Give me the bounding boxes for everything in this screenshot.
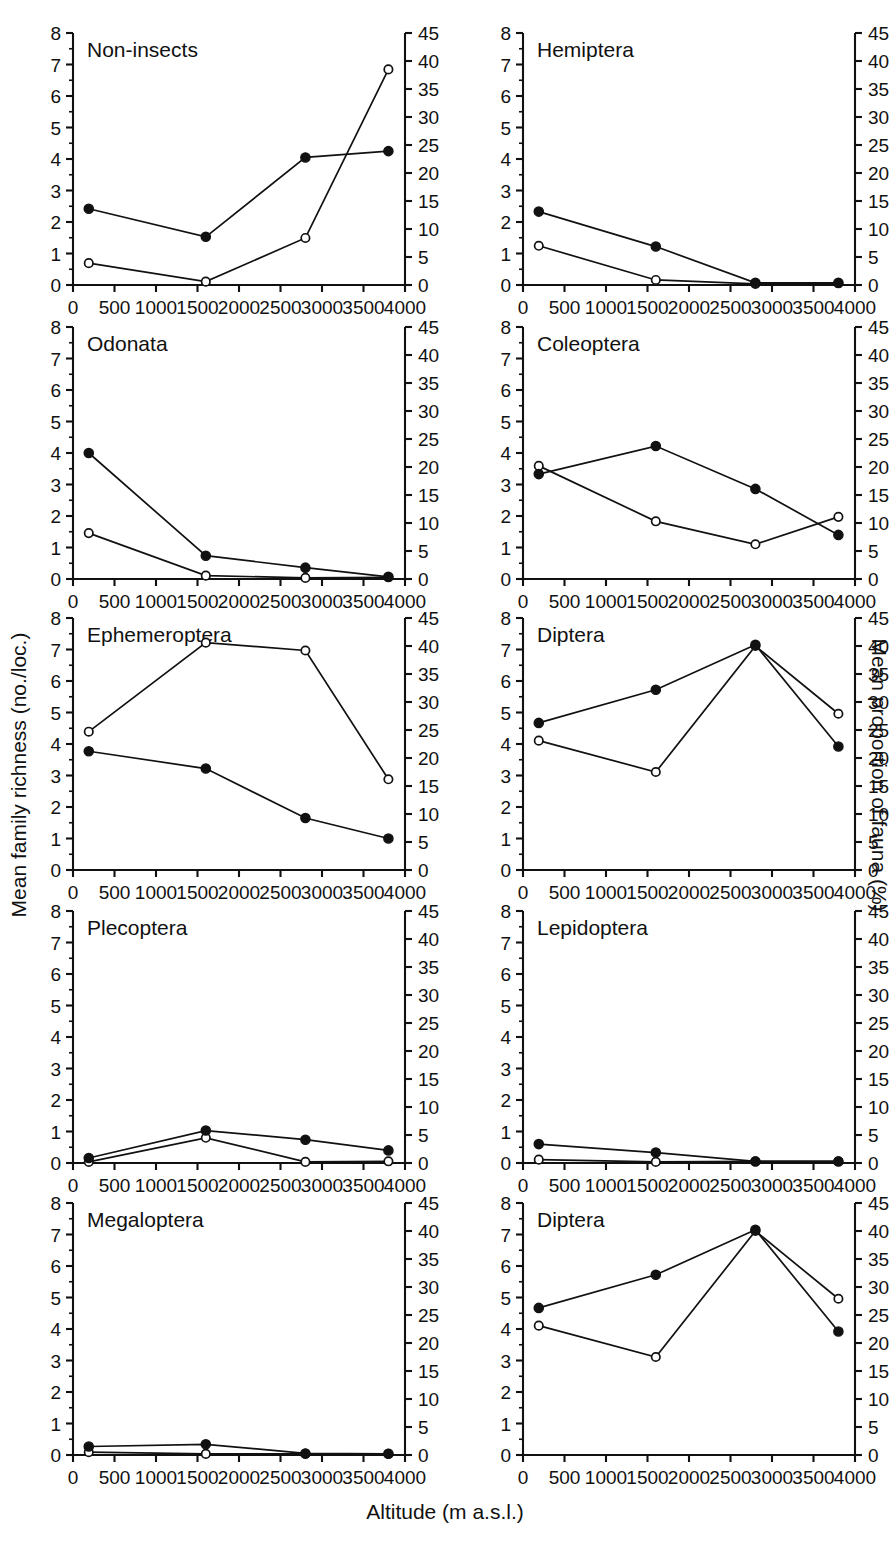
data-point-proportion <box>834 513 842 521</box>
x-axis-tick-label: 2500 <box>259 591 301 612</box>
y-axis-left-tick-label: 5 <box>500 1288 511 1309</box>
series-line-richness <box>539 1144 839 1161</box>
y-axis-right-tick-label: 15 <box>418 776 439 797</box>
data-point-richness <box>84 1442 93 1451</box>
y-axis-left-tick-label: 0 <box>50 569 61 590</box>
y-axis-left-tick-label: 7 <box>500 640 511 661</box>
panel-title: Lepidoptera <box>537 916 648 939</box>
y-axis-right-tick-label: 10 <box>868 1389 889 1410</box>
y-axis-left-tick-label: 8 <box>50 317 61 338</box>
x-axis-tick-label: 500 <box>549 297 581 318</box>
x-axis-tick-label: 3000 <box>301 297 343 318</box>
y-axis-left-tick-label: 7 <box>50 1225 61 1246</box>
data-point-richness <box>651 242 660 251</box>
series-line-proportion <box>539 1231 839 1357</box>
data-point-richness <box>534 1140 543 1149</box>
x-axis-tick-label: 1500 <box>626 297 668 318</box>
y-axis-right-tick-label: 25 <box>418 135 439 156</box>
panel-title: Odonata <box>87 332 168 355</box>
y-axis-left-tick-label: 3 <box>500 475 511 496</box>
x-axis-tick-label: 1500 <box>626 1467 668 1488</box>
x-axis-tick-label: 500 <box>549 591 581 612</box>
y-axis-right-tick-label: 30 <box>418 401 439 422</box>
x-axis-tick-label: 0 <box>68 1467 79 1488</box>
x-axis-tick-label: 1000 <box>135 882 177 903</box>
y-axis-left-tick-label: 6 <box>500 86 511 107</box>
y-axis-left-tick-label: 8 <box>500 608 511 629</box>
data-point-proportion <box>652 1353 660 1361</box>
x-axis-tick-label: 3000 <box>751 591 793 612</box>
y-axis-right-tick-label: 0 <box>868 1445 879 1466</box>
y-axis-right-tick-label: 45 <box>868 1193 889 1214</box>
y-axis-right-tick-label: 5 <box>418 1125 429 1146</box>
y-axis-right-tick-label: 10 <box>418 1097 439 1118</box>
data-point-proportion <box>535 1321 543 1329</box>
y-axis-left-tick-label: 2 <box>50 797 61 818</box>
data-point-richness <box>751 484 760 493</box>
y-axis-left-tick-label: 3 <box>50 766 61 787</box>
data-point-richness <box>84 747 93 756</box>
x-axis-tick-label: 3000 <box>301 591 343 612</box>
y-axis-right-tick-label: 45 <box>418 608 439 629</box>
x-axis-tick-label: 4000 <box>384 1467 426 1488</box>
data-point-richness <box>201 1440 210 1449</box>
data-point-richness <box>301 563 310 572</box>
data-point-richness <box>651 1148 660 1157</box>
series-line-richness <box>89 453 389 577</box>
x-axis-tick-label: 2500 <box>259 882 301 903</box>
x-axis-tick-label: 1500 <box>626 1175 668 1196</box>
y-axis-left-tick-label: 4 <box>500 734 511 755</box>
x-axis-tick-label: 2500 <box>709 882 751 903</box>
x-axis-tick-label: 1000 <box>135 1467 177 1488</box>
y-axis-left-tick-label: 4 <box>50 443 61 464</box>
x-axis-tick-label: 1000 <box>585 297 627 318</box>
y-axis-right-tick-label: 20 <box>868 457 889 478</box>
y-axis-right-tick-label: 35 <box>418 664 439 685</box>
x-axis-tick-label: 0 <box>68 297 79 318</box>
y-axis-left-tick-label: 6 <box>500 671 511 692</box>
y-axis-right-tick-label: 10 <box>418 513 439 534</box>
x-axis-tick-label: 1500 <box>176 297 218 318</box>
x-axis-tick-label: 2500 <box>259 1175 301 1196</box>
data-point-proportion <box>301 574 309 582</box>
y-axis-right-tick-label: 30 <box>868 107 889 128</box>
y-axis-left-tick-label: 2 <box>500 1382 511 1403</box>
x-axis-tick-label: 1500 <box>176 591 218 612</box>
x-axis-tick-label: 500 <box>549 1175 581 1196</box>
y-axis-left-tick-label: 0 <box>500 860 511 881</box>
panel-grid: 0123456780510152025303540450500100015002… <box>0 0 890 1549</box>
y-axis-right-tick-label: 10 <box>418 219 439 240</box>
y-axis-right-tick-label: 10 <box>868 1097 889 1118</box>
x-axis-tick-label: 500 <box>549 882 581 903</box>
y-axis-right-tick-label: 40 <box>418 636 439 657</box>
y-axis-left-tick-label: 7 <box>50 349 61 370</box>
y-axis-left-tick-label: 5 <box>500 118 511 139</box>
y-axis-left-tick-label: 1 <box>50 244 61 265</box>
y-axis-left-tick-label: 2 <box>50 506 61 527</box>
data-point-richness <box>201 232 210 241</box>
panel-megaloptera: 0123456780510152025303540450500100015002… <box>50 1193 439 1488</box>
y-axis-left-tick-label: 3 <box>500 181 511 202</box>
x-axis-tick-label: 3000 <box>751 1175 793 1196</box>
x-axis-tick-label: 4000 <box>384 297 426 318</box>
x-axis-tick-label: 0 <box>68 882 79 903</box>
x-axis-tick-label: 1000 <box>135 297 177 318</box>
x-axis-tick-label: 2500 <box>709 1175 751 1196</box>
x-axis-tick-label: 3000 <box>301 882 343 903</box>
data-point-richness <box>751 278 760 287</box>
y-axis-left-tick-label: 7 <box>500 933 511 954</box>
data-point-proportion <box>85 529 93 537</box>
x-axis-tick-label: 0 <box>518 591 529 612</box>
data-point-richness <box>84 204 93 213</box>
y-axis-left-tick-label: 8 <box>50 23 61 44</box>
data-point-proportion <box>834 1295 842 1303</box>
x-axis-tick-label: 1000 <box>585 591 627 612</box>
data-point-richness <box>534 207 543 216</box>
data-point-richness <box>384 572 393 581</box>
y-axis-left-tick-label: 5 <box>500 996 511 1017</box>
y-axis-right-tick-label: 15 <box>868 191 889 212</box>
x-axis-title: Altitude (m a.s.l.) <box>366 1500 524 1523</box>
y-axis-left-tick-label: 3 <box>50 1351 61 1372</box>
data-point-proportion <box>535 1155 543 1163</box>
panel-coleoptera: 0123456780510152025303540450500100015002… <box>500 317 889 612</box>
